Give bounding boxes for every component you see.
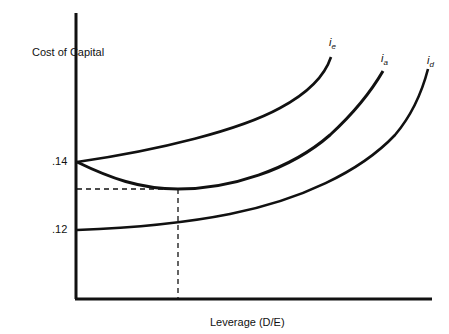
curve-id	[77, 69, 428, 230]
curve-ie	[77, 57, 331, 162]
curve-ia	[77, 71, 383, 189]
chart-plot	[0, 0, 449, 334]
